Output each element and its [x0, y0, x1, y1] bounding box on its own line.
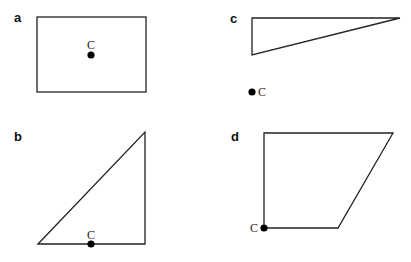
diagram-canvas: a C c C b C d C — [0, 0, 411, 262]
point-label-c: C — [250, 221, 258, 235]
point-label-c: C — [258, 85, 266, 99]
point-label-c: C — [87, 38, 95, 52]
panel-label-b: b — [14, 129, 22, 144]
panel-a: a C — [14, 10, 146, 92]
point-c-dot — [87, 51, 94, 58]
panel-label-a: a — [14, 10, 22, 25]
point-c-dot — [260, 224, 267, 231]
panel-c: c C — [230, 11, 400, 99]
point-c-dot — [87, 240, 94, 247]
point-label-c: C — [87, 228, 95, 242]
panel-b: b C — [14, 129, 145, 248]
point-c-dot — [248, 88, 255, 95]
thin-triangle-shape — [252, 18, 400, 55]
panel-label-d: d — [231, 129, 239, 144]
panel-d: d C — [231, 129, 393, 235]
panel-label-c: c — [230, 11, 237, 26]
trapezoid-shape — [264, 133, 393, 228]
